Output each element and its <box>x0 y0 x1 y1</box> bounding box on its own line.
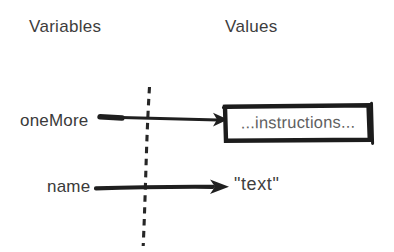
variable-label-name: name <box>47 177 90 197</box>
values-column-header: Values <box>225 17 278 37</box>
string-literal-value: "text" <box>234 174 279 195</box>
frame-boundary-dashed-line <box>143 87 149 246</box>
instructions-box-right-edge-overstroke <box>372 103 373 143</box>
name-arrow-shaft <box>96 187 213 189</box>
instructions-box-value: ...instructions... <box>228 107 368 139</box>
variables-column-header: Variables <box>29 17 101 37</box>
variables-values-diagram: Variables Values oneMore ...instructions… <box>0 0 394 252</box>
variable-label-oneMore: oneMore <box>20 111 89 131</box>
